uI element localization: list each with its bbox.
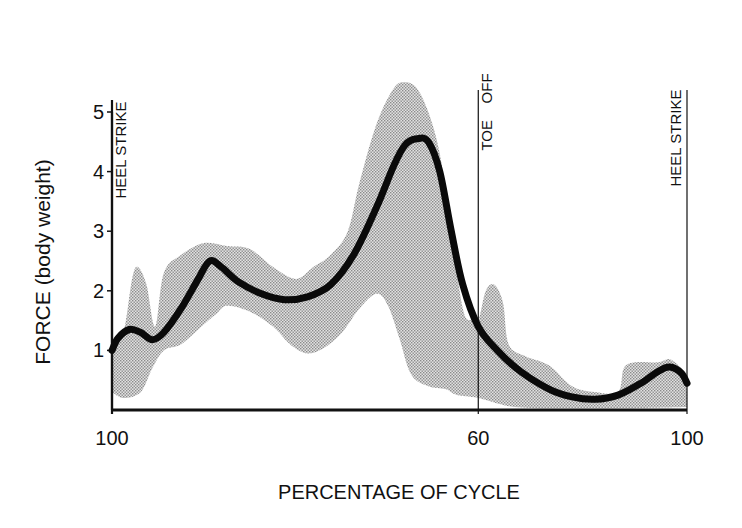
force-range-band [112, 82, 687, 408]
event-label: HEEL STRIKE [667, 90, 684, 187]
range-band [112, 82, 687, 408]
x-tick-label: 60 [467, 427, 489, 449]
y-tick-label: 4 [93, 161, 104, 183]
gait-force-chart: 1234510060100PERCENTAGE OF CYCLEFORCE (b… [0, 0, 742, 528]
y-tick-label: 3 [93, 220, 104, 242]
event-label: TOE OFF [478, 73, 495, 150]
y-tick-label: 2 [93, 280, 104, 302]
y-tick-label: 5 [93, 101, 104, 123]
y-tick-label: 1 [93, 339, 104, 361]
x-tick-label: 100 [95, 427, 128, 449]
event-label: HEEL STRIKE [112, 102, 129, 199]
y-axis-title: FORCE (body weight) [31, 159, 54, 364]
x-axis-title: PERCENTAGE OF CYCLE [278, 481, 520, 503]
x-tick-label: 100 [670, 427, 703, 449]
